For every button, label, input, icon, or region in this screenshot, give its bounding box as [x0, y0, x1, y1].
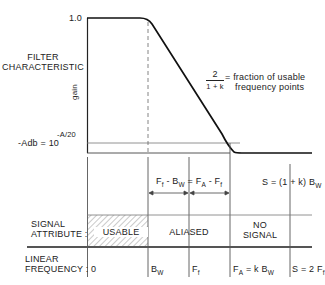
linear-frequency-label: LINEAR FREQUENCY :: [25, 254, 89, 274]
freq-label-line1: LINEAR: [25, 254, 89, 264]
fraction-desc-line2: frequency points: [225, 82, 305, 92]
bw-tick-sub: W: [157, 269, 163, 276]
s-tick-sub: f: [323, 269, 325, 276]
s-formula: S = (1 + k) B: [262, 177, 315, 187]
fraction-denominator: 1 + k: [206, 81, 224, 92]
equals-fa: = F: [185, 176, 202, 186]
fa-suffix: = k B: [243, 264, 267, 274]
filter-label-line2: CHARACTERISTIC: [0, 62, 86, 72]
fraction-description: = fraction of usable frequency points: [225, 72, 305, 92]
freq-tick-ff: Ff: [192, 264, 200, 274]
minus-bw: - B: [164, 176, 179, 186]
freq-tick-bw: BW: [151, 264, 164, 274]
signal-attribute-label: SIGNAL ATTRIBUTE :: [31, 219, 88, 239]
signal-label-line1: SIGNAL: [31, 219, 88, 229]
region-aliased: ALIASED: [150, 227, 228, 237]
fraction-desc-line1: = fraction of usable: [225, 72, 305, 82]
signal-label-line2: ATTRIBUTE :: [31, 229, 88, 239]
s-main: S = 2 F: [292, 264, 323, 274]
sampling-rate-label: S = (1 + k) BW: [262, 177, 321, 187]
filter-characteristic-label: FILTER CHARACTERISTIC: [0, 52, 86, 72]
interval-equation: Ff - BW = FA - Ff: [156, 176, 222, 186]
attenuation-exponent: -A/20: [57, 130, 76, 140]
minus-ff: - F: [206, 176, 220, 186]
fraction-formula: 2 1 + k: [206, 69, 224, 92]
freq-label-line2: FREQUENCY :: [25, 264, 89, 274]
ff-sub-2: f: [220, 181, 222, 188]
freq-tick-zero: 0: [91, 264, 96, 274]
fa-suffix-sub: W: [268, 269, 274, 276]
fraction-numerator: 2: [206, 69, 224, 81]
no-signal-line2: SIGNAL: [232, 230, 288, 240]
filter-label-line1: FILTER: [0, 52, 86, 62]
ff-tick-sub: f: [198, 269, 200, 276]
region-no-signal: NO SIGNAL: [232, 220, 288, 240]
no-signal-line1: NO: [232, 220, 288, 230]
s-formula-sub: W: [315, 182, 321, 189]
freq-tick-fa: FA = k BW: [233, 264, 274, 274]
gain-axis-label: gain: [70, 84, 80, 100]
freq-tick-s: S = 2 Ff: [292, 264, 325, 274]
region-usable: USABLE: [94, 227, 148, 237]
attenuation-label: -Adb = 10: [18, 138, 59, 148]
gain-max-tick: 1.0: [52, 13, 82, 23]
